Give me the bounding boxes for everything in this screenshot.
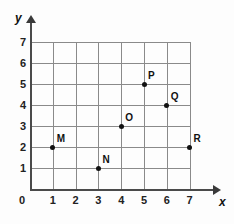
y-axis-label: y xyxy=(15,12,22,24)
data-point-m xyxy=(50,145,55,150)
grid-line-vertical xyxy=(167,42,168,189)
x-axis-label: x xyxy=(219,196,226,208)
data-point-label-p: P xyxy=(148,71,155,81)
grid-line-horizontal xyxy=(30,168,190,169)
y-tick-label-7: 7 xyxy=(14,37,26,48)
data-point-label-n: N xyxy=(102,155,109,165)
x-tick-label-3: 3 xyxy=(91,195,105,206)
grid-line-vertical xyxy=(144,42,145,189)
x-tick-label-0: 0 xyxy=(15,195,29,206)
grid-line-vertical xyxy=(76,42,77,189)
data-point-q xyxy=(164,103,169,108)
x-tick-label-5: 5 xyxy=(137,195,151,206)
grid-line-horizontal xyxy=(30,84,190,85)
x-tick-label-7: 7 xyxy=(183,195,197,206)
data-point-label-q: Q xyxy=(171,92,179,102)
y-axis-line xyxy=(30,22,32,191)
data-point-label-o: O xyxy=(125,113,133,123)
y-tick-label-4: 4 xyxy=(14,100,26,111)
data-point-label-m: M xyxy=(57,134,65,144)
x-tick-label-1: 1 xyxy=(46,195,60,206)
y-tick-label-5: 5 xyxy=(14,79,26,90)
x-axis-arrow-icon xyxy=(213,185,221,195)
coordinate-plane-figure: x y 01234567 1234567 MNOPQR xyxy=(0,0,234,224)
data-point-label-r: R xyxy=(194,134,201,144)
y-tick-label-1: 1 xyxy=(14,163,26,174)
y-tick-label-3: 3 xyxy=(14,121,26,132)
data-point-n xyxy=(96,166,101,171)
grid-line-vertical xyxy=(53,42,54,189)
grid-line-horizontal xyxy=(30,42,190,43)
x-tick-label-4: 4 xyxy=(114,195,128,206)
grid-line-vertical xyxy=(121,42,122,189)
grid-line-horizontal xyxy=(30,126,190,127)
data-point-r xyxy=(187,145,192,150)
x-tick-label-6: 6 xyxy=(160,195,174,206)
data-point-o xyxy=(119,124,124,129)
data-point-p xyxy=(142,82,147,87)
x-axis-line xyxy=(30,189,214,191)
y-axis-arrow-icon xyxy=(26,15,36,23)
x-tick-label-2: 2 xyxy=(69,195,83,206)
y-tick-label-2: 2 xyxy=(14,142,26,153)
grid-line-vertical xyxy=(190,42,191,189)
grid-line-horizontal xyxy=(30,63,190,64)
y-tick-label-6: 6 xyxy=(14,58,26,69)
